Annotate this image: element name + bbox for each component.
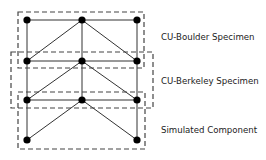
label-simulated-component: Simulated Component [161, 126, 257, 135]
truss-members [27, 20, 137, 140]
truss-node [23, 16, 30, 23]
truss-node [133, 136, 140, 143]
truss-node [23, 57, 30, 64]
truss-node [23, 136, 30, 143]
truss-member [82, 61, 137, 100]
truss-node [78, 16, 85, 23]
truss-node [78, 57, 85, 64]
truss-member [27, 61, 82, 100]
label-cu-berkeley-specimen: CU-Berkeley Specimen [161, 77, 259, 86]
truss-node [133, 16, 140, 23]
truss-member [82, 20, 137, 61]
label-cu-boulder-specimen: CU-Boulder Specimen [161, 33, 255, 42]
truss-member [27, 100, 82, 140]
truss-node [133, 57, 140, 64]
truss-node [23, 96, 30, 103]
truss-member [27, 20, 82, 61]
truss-node [133, 96, 140, 103]
truss-node [78, 96, 85, 103]
truss-member [82, 100, 137, 140]
